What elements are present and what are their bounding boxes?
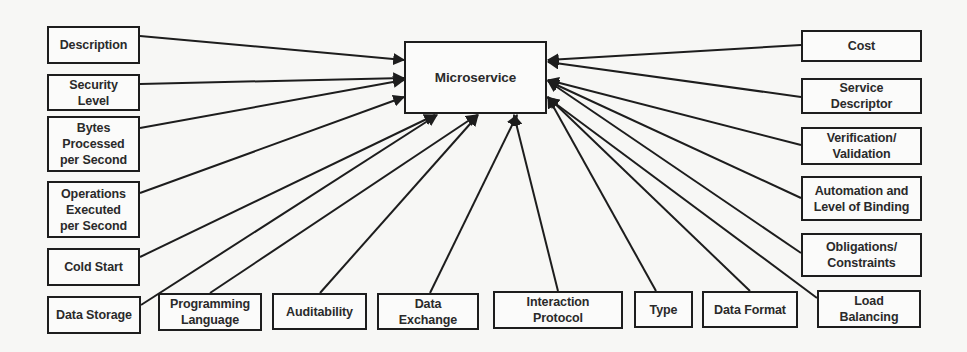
arrow-bytes-processed-to-microservice <box>140 80 404 128</box>
arrow-data-exchange-to-microservice <box>430 115 517 293</box>
attribute-label: Type <box>650 302 678 318</box>
attribute-label: Data Storage <box>56 307 132 323</box>
attribute-node-bytes-processed: Bytes Processed per Second <box>47 116 140 172</box>
attribute-node-service-descriptor: Service Descriptor <box>801 78 922 114</box>
attribute-label: Security Level <box>69 77 118 109</box>
arrow-cold-start-to-microservice <box>140 115 435 257</box>
arrow-service-descriptor-to-microservice <box>548 62 801 97</box>
attribute-node-auditability: Auditability <box>272 293 367 330</box>
attribute-label: Programming Language <box>170 296 250 328</box>
attribute-node-verification-validation: Verification/ Validation <box>801 127 922 165</box>
attribute-node-programming-language: Programming Language <box>158 293 262 331</box>
arrow-automation-binding-to-microservice <box>548 81 801 198</box>
attribute-label: Bytes Processed per Second <box>60 120 127 168</box>
arrow-description-to-microservice <box>140 36 404 60</box>
attribute-node-data-exchange: Data Exchange <box>377 293 479 330</box>
arrow-cost-to-microservice <box>548 45 801 60</box>
attribute-node-automation-binding: Automation and Level of Binding <box>801 176 922 221</box>
arrow-load-balancing-to-microservice <box>548 98 817 298</box>
attribute-label: Load Balancing <box>840 293 899 325</box>
arrow-verification-validation-to-microservice <box>548 80 801 145</box>
attribute-label: Auditability <box>286 304 353 320</box>
attribute-label: Interaction Protocol <box>527 294 590 326</box>
attribute-label: Cost <box>848 38 875 54</box>
attribute-node-security-level: Security Level <box>47 74 140 111</box>
attribute-label: Description <box>60 37 128 53</box>
attribute-label: Obligations/ Constraints <box>826 239 897 271</box>
microservice-node: Microservice <box>404 41 547 114</box>
attribute-label: Automation and Level of Binding <box>814 183 910 215</box>
attribute-label: Data Exchange <box>399 296 457 328</box>
attribute-node-cost: Cost <box>801 30 922 62</box>
attribute-node-data-format: Data Format <box>702 291 798 328</box>
attribute-node-data-storage: Data Storage <box>47 296 141 334</box>
arrow-interaction-protocol-to-microservice <box>514 115 558 291</box>
attribute-label: Cold Start <box>64 259 123 275</box>
attribute-node-interaction-protocol: Interaction Protocol <box>493 291 623 329</box>
attribute-label: Verification/ Validation <box>827 130 897 162</box>
attribute-node-load-balancing: Load Balancing <box>817 290 921 328</box>
attribute-node-cold-start: Cold Start <box>47 248 140 286</box>
attribute-node-description: Description <box>47 26 140 64</box>
arrow-data-format-to-microservice <box>548 97 750 291</box>
arrow-type-to-microservice <box>548 97 656 291</box>
attribute-label: Data Format <box>714 302 786 318</box>
attribute-node-type: Type <box>634 291 693 328</box>
attribute-node-operations-executed: Operations Executed per Second <box>47 181 140 238</box>
arrow-operations-executed-to-microservice <box>140 97 404 193</box>
attribute-label: Service Descriptor <box>831 80 893 112</box>
attribute-node-obligations-constraints: Obligations/ Constraints <box>801 233 922 277</box>
arrow-security-level-to-microservice <box>140 78 404 84</box>
attribute-label: Operations Executed per Second <box>60 186 127 234</box>
microservice-label: Microservice <box>435 70 516 86</box>
